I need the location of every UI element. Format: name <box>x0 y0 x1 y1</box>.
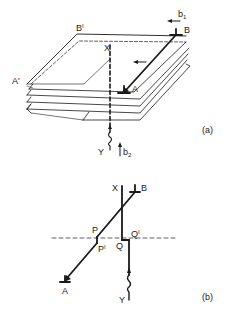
label-P-prime: PI <box>98 244 106 254</box>
line-Pprime-A <box>67 243 97 278</box>
dislocation-diagram: BI A' X B A Y b1 b2 (a) X <box>0 0 226 313</box>
label-X-b: X <box>112 183 118 193</box>
label-B: B <box>184 25 190 35</box>
panel-a <box>27 19 190 156</box>
panel-a-labels: BI A' X B A Y b1 b2 (a) <box>12 9 213 158</box>
crystal-plates <box>27 42 190 120</box>
panel-label-a: (a) <box>202 125 213 135</box>
label-B-prime: BI <box>76 23 84 33</box>
label-A: A <box>132 84 138 94</box>
label-Y-b: Y <box>119 295 125 305</box>
screw-twist-icon <box>109 132 112 150</box>
panel-b <box>52 185 175 300</box>
label-b2: b2 <box>123 147 132 158</box>
label-A-prime: A' <box>12 76 20 86</box>
screw-twist-icon-b <box>128 275 131 300</box>
label-Q-prime: QI <box>131 229 140 239</box>
panel-b-labels: X B P PI Q QI A Y (b) <box>62 183 213 305</box>
label-B-b: B <box>141 183 147 193</box>
panel-label-b: (b) <box>202 292 213 302</box>
label-b1: b1 <box>178 9 187 20</box>
line-B-P <box>97 192 135 237</box>
label-Y: Y <box>98 147 104 157</box>
label-X: X <box>104 43 110 53</box>
label-Q: Q <box>116 241 123 251</box>
label-P: P <box>92 225 98 235</box>
label-A-b: A <box>62 286 68 296</box>
